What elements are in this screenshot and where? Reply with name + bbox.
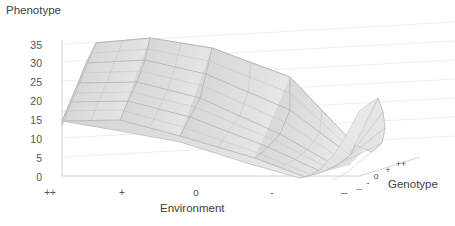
phenotype-surface: [62, 38, 385, 180]
y-tick-5: 5: [16, 153, 42, 164]
y-tick-35: 35: [16, 40, 42, 51]
y-tick-0: 0: [16, 172, 42, 183]
y-tick-25: 25: [16, 77, 42, 88]
x-tick-minus: -: [258, 188, 286, 198]
surface-chart: Phenotype 35 30 25 20 15 10 5 0 ++ + o -…: [0, 0, 455, 226]
z-tick-plusplus: ++: [393, 160, 409, 169]
x-tick-o: o: [182, 188, 210, 198]
y-tick-10: 10: [16, 134, 42, 145]
x-tick-plusplus: ++: [36, 188, 64, 198]
y-tick-30: 30: [16, 58, 42, 69]
z-axis-title: Genotype: [388, 179, 438, 191]
y-tick-15: 15: [16, 115, 42, 126]
x-axis-title: Environment: [160, 203, 225, 215]
x-tick-plus: +: [108, 188, 136, 198]
plot-canvas: [0, 0, 455, 226]
y-axis-title: Phenotype: [6, 5, 61, 17]
y-tick-20: 20: [16, 96, 42, 107]
